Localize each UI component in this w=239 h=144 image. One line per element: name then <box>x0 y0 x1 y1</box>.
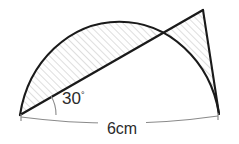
geometry-svg: 30° 6cm <box>0 0 239 144</box>
degree-symbol: ° <box>81 90 85 100</box>
angle-arc-marker <box>51 96 56 115</box>
diameter-label: 6cm <box>107 120 137 137</box>
angle-value: 30 <box>62 89 81 108</box>
geometry-figure: 30° 6cm <box>0 0 239 144</box>
angle-label: 30° <box>62 89 85 108</box>
